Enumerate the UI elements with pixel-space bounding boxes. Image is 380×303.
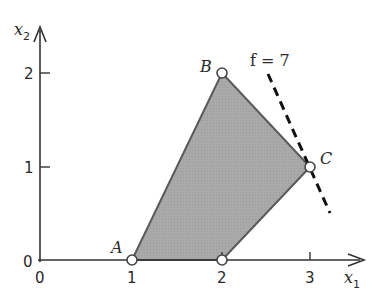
- vertex-b-label: B: [199, 57, 212, 76]
- y-axis-label: x2: [14, 20, 30, 43]
- x-tick-label-3: 3: [305, 269, 315, 287]
- y-tick-label-2: 2: [24, 65, 34, 83]
- vertex-c-label: C: [320, 149, 332, 168]
- x-tick-label-1: 1: [127, 269, 137, 287]
- vertex-a-marker: [127, 255, 137, 265]
- x-tick-label-2: 2: [217, 269, 227, 287]
- vertex-a-label: A: [109, 238, 123, 257]
- vertex-b-marker: [217, 68, 227, 78]
- vertex-c-marker: [305, 162, 315, 172]
- y-tick-label-0: 0: [23, 253, 33, 271]
- y-tick-label-1: 1: [24, 159, 34, 177]
- x-tick-label-0: 0: [35, 269, 45, 287]
- objective-line-label: f = 7: [250, 51, 290, 70]
- x-axis-label: x1: [344, 268, 360, 291]
- lp-diagram: 2 1 0 0 1 2 3 x2 x1 A B C f = 7: [0, 0, 380, 303]
- feasible-region: [132, 73, 310, 260]
- vertex-d-marker: [217, 255, 227, 265]
